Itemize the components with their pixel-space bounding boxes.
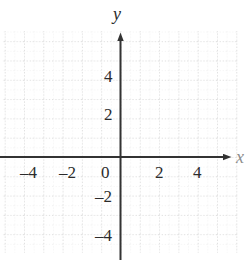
x-tick-label-pos4: 4 — [193, 164, 202, 181]
coordinate-plane-figure: y x –4 –2 0 2 4 4 2 –2 –4 — [0, 0, 245, 260]
y-axis-label: y — [113, 5, 121, 23]
x-tick-label-neg4: –4 — [20, 164, 37, 181]
x-tick-label-pos2: 2 — [155, 164, 164, 181]
y-tick-label-neg2: –2 — [95, 188, 112, 205]
y-tick-label-pos2: 2 — [104, 106, 113, 123]
y-tick-label-pos4: 4 — [104, 68, 113, 85]
x-axis-label: x — [236, 148, 244, 166]
graph-canvas — [0, 0, 245, 260]
x-tick-label-neg2: –2 — [59, 164, 76, 181]
x-tick-label-zero: 0 — [101, 164, 110, 181]
y-tick-label-neg4: –4 — [95, 227, 112, 244]
